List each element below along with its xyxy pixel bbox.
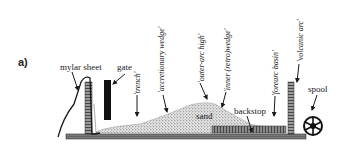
forearc-basin-annotation: 'forearc basin': [272, 50, 280, 96]
backstop-label: backstop: [234, 107, 266, 116]
spool-label: spool: [308, 85, 328, 94]
volcanic-arc-annotation: 'volcanic arc': [297, 19, 305, 62]
mylar-sheet: [58, 77, 100, 137]
accretionary-wedge-annotation: 'accretionary wedge': [158, 27, 166, 93]
sandbox-experiment-diagram: a) mylar sheet gate sand backstop spool …: [0, 0, 344, 149]
base-plate: [66, 134, 306, 139]
trench-annotation: 'trench': [134, 71, 142, 95]
backstop: [212, 126, 286, 133]
gate-label: gate: [117, 63, 132, 72]
right-wall: [288, 82, 294, 134]
panel-label: a): [18, 56, 28, 68]
gate: [104, 80, 111, 120]
spool-icon: [304, 117, 322, 135]
outer-arc-high-annotation: 'outer-arc high': [198, 34, 206, 83]
mylar-sheet-label: mylar sheet: [60, 63, 102, 72]
sand-label: sand: [196, 112, 213, 121]
inner-retro-wedge-annotation: 'inner (retro)wedge': [224, 29, 232, 92]
